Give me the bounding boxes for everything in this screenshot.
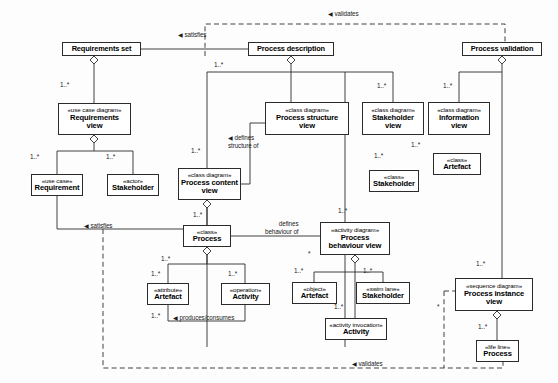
multiplicity-star-behaviour: * <box>308 250 310 257</box>
node-label-line2: view <box>385 122 401 130</box>
node-process-instance-view[interactable]: «sequence diagram» Process instance view <box>455 278 533 311</box>
multiplicity-procbehav-top: 1..* <box>338 207 347 214</box>
node-requirements-view[interactable]: «use case diagram» Requirements view <box>58 103 131 135</box>
multiplicity-star-instance: * <box>437 303 439 310</box>
node-information-view[interactable]: «class diagram» Information view <box>428 102 490 135</box>
node-label-line2: behaviour view <box>329 242 382 250</box>
node-label-line2: view <box>486 298 502 306</box>
node-label: Stakeholder <box>373 180 415 188</box>
label-text: validates <box>335 10 359 17</box>
left-triangle-icon: ◀ <box>173 315 178 321</box>
node-artefact-attribute[interactable]: «attribute» Artefact <box>147 283 189 305</box>
node-label-line2: view <box>202 187 218 195</box>
left-triangle-icon: ◀ <box>84 223 89 229</box>
diamond-process-description <box>287 56 295 64</box>
node-label: Stakeholder <box>362 292 404 300</box>
label-text: validates <box>359 360 383 367</box>
node-process-structure-view[interactable]: «class diagram» Process structure view <box>265 102 349 135</box>
diamond-process-class <box>203 247 211 255</box>
multiplicity-stakeholderview-class: 1..* <box>374 152 383 159</box>
left-triangle-icon: ◀ <box>328 11 333 17</box>
node-label: Process <box>483 350 512 358</box>
diamond-process-content-view <box>203 200 211 208</box>
label-satisfies-top: ◀ satisfies <box>178 31 206 38</box>
node-label: Activity <box>232 293 258 301</box>
node-label: Artefact <box>301 292 329 300</box>
label-text-line2: behaviour of <box>265 228 298 236</box>
multiplicity-artefact-produces: 1..* <box>151 312 160 319</box>
label-text: satisfies <box>91 222 113 229</box>
multiplicity-infoview-artefact: 1..* <box>411 141 420 148</box>
multiplicity-procbehav-swimlane: 1..* <box>363 267 372 274</box>
node-label: Artefact <box>443 163 471 171</box>
multiplicity-procbehav-object: 1..* <box>294 267 303 274</box>
multiplicity-process-instance-view: 1..* <box>476 260 485 267</box>
multiplicity-reqset-reqview: 1..* <box>60 81 69 88</box>
node-label: Process validation <box>471 45 534 53</box>
node-label: Requirement <box>35 184 80 192</box>
multiplicity-lifeline: 1..* <box>478 323 487 330</box>
multiplicity-procdesc-left: 1..* <box>214 61 223 68</box>
node-artefact-information[interactable]: «class» Artefact <box>433 153 481 175</box>
node-label-line2: view <box>87 122 103 130</box>
label-text: produces/consumes <box>180 314 235 321</box>
multiplicity-contentview-process: 1..* <box>193 211 202 218</box>
node-process-behaviour-view[interactable]: «activity diagram» Process behaviour vie… <box>320 222 390 255</box>
multiplicity-process-attribute: 1..* <box>151 270 160 277</box>
label-text-line2: structure of <box>228 142 258 150</box>
node-process-validation[interactable]: Process validation <box>462 42 542 56</box>
node-process-content-view[interactable]: «class diagram» Process content view <box>178 168 241 200</box>
node-stakeholder-actor[interactable]: «actor» Stakeholder <box>107 174 159 196</box>
multiplicity-reqview-requirement: 1..* <box>30 153 39 160</box>
node-activity-invocation[interactable]: «activity invocation» Activity <box>325 318 387 340</box>
multiplicity-object-activity: 1..* <box>334 303 343 310</box>
label-text-line1: defines <box>235 134 255 141</box>
diamond-process-behaviour-view <box>351 255 359 263</box>
label-defines-behaviour-of: defines behaviour of <box>265 220 298 236</box>
label-produces-consumes: ◀ produces/consumes <box>173 314 234 321</box>
diamond-process-instance-view <box>493 311 501 319</box>
uml-diagram-canvas: Requirements set Process description Pro… <box>0 0 558 383</box>
node-label: Requirements set <box>72 45 132 53</box>
left-triangle-icon: ◀ <box>228 135 233 141</box>
node-requirements-set[interactable]: Requirements set <box>62 42 141 56</box>
node-process-lifeline[interactable]: «life line» Process <box>476 340 519 362</box>
node-label: Stakeholder <box>112 184 154 192</box>
label-text-line1: defines <box>265 220 298 228</box>
multiplicity-process-children: 1..* <box>161 255 170 262</box>
node-label: Activity <box>343 328 369 336</box>
diagram-connector-layer <box>0 0 558 383</box>
node-label: Process <box>193 235 222 243</box>
label-defines-structure-of: ◀ defines structure of <box>228 134 258 150</box>
label-validates-top: ◀ validates <box>328 10 359 17</box>
left-triangle-icon: ◀ <box>352 361 357 367</box>
node-requirement[interactable]: «use case» Requirement <box>31 174 83 196</box>
diamond-process-validation <box>498 56 506 64</box>
node-label-line2: view <box>299 122 315 130</box>
node-stakeholder-swimlane[interactable]: «swim lane» Stakeholder <box>356 282 410 304</box>
node-label: Artefact <box>154 293 182 301</box>
label-satisfies-middle: ◀ satisfies <box>84 222 112 229</box>
multiplicity-process-content-view: 1..* <box>191 147 200 154</box>
diamond-requirements-view <box>90 135 98 143</box>
node-label: Process description <box>257 45 325 53</box>
left-triangle-icon: ◀ <box>178 32 183 38</box>
multiplicity-stakeholder-view: 1..* <box>377 82 386 89</box>
multiplicity-process-operation: 1..* <box>228 270 237 277</box>
node-artefact-object[interactable]: «object» Artefact <box>292 282 337 304</box>
label-validates-bottom: ◀ validates <box>352 360 383 367</box>
edge-defines-structure-of <box>241 123 265 184</box>
node-label-line2: view <box>451 122 467 130</box>
multiplicity-information-view: 1..* <box>443 82 452 89</box>
multiplicity-reqview-stakeholder: 1..* <box>106 153 115 160</box>
node-stakeholder-class[interactable]: «class» Stakeholder <box>369 170 419 192</box>
node-stakeholder-view[interactable]: «class diagram» Stakeholder view <box>362 102 424 135</box>
diamond-requirements-set <box>90 56 98 64</box>
node-process-class[interactable]: «class» Process <box>183 225 231 247</box>
node-process-description[interactable]: Process description <box>248 42 334 56</box>
label-text: satisfies <box>185 31 207 38</box>
node-activity-operation[interactable]: «operation» Activity <box>221 283 270 305</box>
